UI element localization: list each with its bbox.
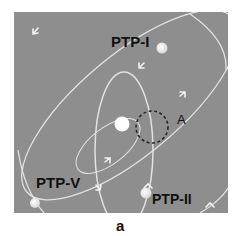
ptp-ii-body — [141, 188, 152, 199]
central-body — [115, 117, 130, 132]
ptp-v-label: PTP-V — [36, 175, 80, 190]
ptp-i-body — [157, 43, 168, 54]
ptp-ii-label: PTP-II — [152, 192, 192, 206]
panel-label: a — [116, 218, 124, 233]
ptp-i-label: PTP-I — [111, 34, 149, 49]
orbit-diagram-figure: PTP-I PTP-V PTP-II A a — [0, 0, 240, 236]
ptp-v-body — [30, 198, 40, 208]
region-a-label: A — [177, 113, 186, 126]
